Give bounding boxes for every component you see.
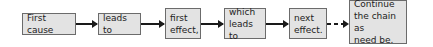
node-label: first effect, <box>170 12 199 36</box>
node-continue-chain: Continue the chain as need be. <box>349 0 407 44</box>
arrow-4 <box>266 23 288 25</box>
node-label: leads to <box>103 12 136 36</box>
node-label: First cause <box>27 12 71 36</box>
arrow-1 <box>76 23 97 25</box>
node-first-effect: first effect, <box>165 8 201 39</box>
arrow-2 <box>141 23 164 25</box>
node-label: which leads to <box>229 6 261 42</box>
node-first-cause: First cause <box>22 13 76 35</box>
arrow-3 <box>201 23 223 25</box>
node-next-effect: next effect. <box>289 8 327 39</box>
node-label: next effect. <box>294 12 323 36</box>
node-label: Continue the chain as need be. <box>354 0 402 46</box>
arrow-5-dashed <box>327 23 348 25</box>
node-which-leads-to: which leads to <box>224 8 266 39</box>
node-leads-to: leads to <box>98 13 141 35</box>
